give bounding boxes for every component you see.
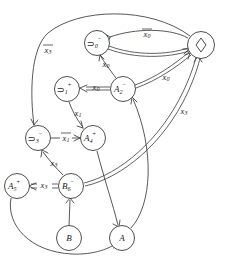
node-B-label: B — [66, 233, 72, 243]
node-not0-minus[interactable]: ⊃0− — [85, 31, 110, 56]
edge-label-x1: x1 — [74, 108, 82, 119]
arrowhead-diamond-to-not3 — [31, 119, 38, 125]
svg-text:x3: x3 — [50, 158, 58, 169]
svg-text:x3: x3 — [44, 45, 52, 56]
arrowhead-A2-to-not1 — [80, 85, 87, 92]
node-diamond[interactable] — [188, 32, 215, 59]
node-A-label: A — [118, 233, 125, 243]
edge-not0-to-diamond-a[interactable] — [109, 46, 188, 53]
arrowhead-not1-to-A4 — [77, 121, 83, 128]
svg-text:x3: x3 — [180, 106, 188, 117]
svg-text:x1: x1 — [74, 108, 82, 119]
node-not1-plus[interactable]: ⊃1+ — [55, 77, 80, 102]
svg-text:x1: x1 — [62, 133, 70, 144]
node-A2-minus[interactable]: A2− — [111, 77, 136, 102]
node-not3-minus[interactable]: ⊃3− — [26, 126, 51, 151]
edge-not0-to-diamond-b[interactable] — [108, 49, 189, 56]
edge-label-x0-mid: x0 — [92, 82, 100, 93]
node-A[interactable]: A — [110, 226, 135, 251]
edge-label-x3-right: x3 — [180, 106, 188, 117]
edge-label-x1-bar: x1 — [61, 133, 71, 144]
diagram-canvas: ⊃0− ⊃1+ A2− — [0, 0, 225, 264]
node-B[interactable]: B — [57, 226, 82, 251]
svg-text:x0: x0 — [102, 59, 110, 70]
node-B6-minus[interactable]: B6− — [59, 174, 84, 199]
edge-B6-to-diamond-b[interactable] — [85, 58, 200, 186]
node-layer: ⊃0− ⊃1+ A2− — [5, 31, 215, 251]
edge-A4-to-A[interactable] — [97, 151, 118, 225]
svg-text:x3: x3 — [40, 180, 48, 191]
graph-svg: ⊃0− ⊃1+ A2− — [0, 0, 225, 264]
edge-label-x3-mid: x3 — [50, 158, 58, 169]
edge-label-x0-top: x0 — [102, 59, 110, 70]
edge-label-x0-right: x0 — [162, 72, 170, 83]
edge-B-to-B6[interactable] — [69, 200, 70, 226]
svg-text:x0: x0 — [92, 82, 100, 93]
edge-label-x3-bar: x3 — [43, 45, 53, 56]
edge-label-layer: x0 x3 x0 x0 — [40, 29, 188, 191]
svg-text:x0: x0 — [162, 72, 170, 83]
node-A5-plus[interactable]: A5+ — [5, 174, 30, 199]
node-diamond-circle[interactable] — [188, 32, 215, 59]
node-A4-plus[interactable]: A4+ — [81, 126, 106, 151]
edge-label-x3-left: x3 — [40, 180, 48, 191]
edge-A-to-A2[interactable] — [131, 99, 148, 228]
